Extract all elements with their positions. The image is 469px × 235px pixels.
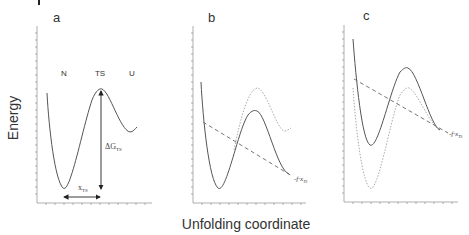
panel-c: c -f·xTS bbox=[342, 8, 462, 204]
panel-label-b: b bbox=[208, 10, 215, 25]
axes-a bbox=[35, 26, 152, 205]
panel-label-a: a bbox=[53, 10, 61, 25]
y-axis-label: Energy bbox=[5, 96, 21, 140]
state-label-n: N bbox=[61, 69, 67, 78]
axes-b bbox=[191, 26, 306, 205]
force-label-c: -f·xTS bbox=[449, 130, 462, 139]
force-line-c bbox=[354, 79, 448, 133]
distance-label: xTS bbox=[78, 183, 88, 193]
panel-label-c: c bbox=[363, 8, 370, 23]
force-line-b bbox=[203, 122, 292, 176]
barrier-label: ΔGTS bbox=[105, 142, 122, 152]
state-label-ts: TS bbox=[95, 69, 105, 78]
energy-curve-c bbox=[353, 39, 440, 145]
energy-curve-a bbox=[47, 89, 137, 189]
state-label-u: U bbox=[129, 69, 135, 78]
figure-canvas: Energy Unfolding coordinate a N TS U ΔGT… bbox=[0, 0, 469, 235]
force-label-b: -f·xTS bbox=[294, 175, 307, 184]
x-axis-label: Unfolding coordinate bbox=[182, 216, 311, 232]
energy-curve-b bbox=[201, 82, 289, 189]
panel-a: a N TS U ΔGTS xTS bbox=[35, 10, 152, 205]
panel-b: b -f·xTS bbox=[191, 10, 307, 205]
corner-mark bbox=[38, 0, 40, 5]
axes-c bbox=[342, 25, 458, 204]
